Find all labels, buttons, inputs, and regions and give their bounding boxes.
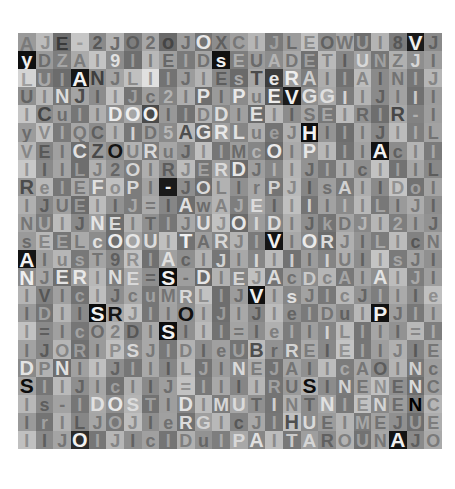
tile-letter-fragment: J [410, 197, 420, 214]
tile-letter-fragment: U [338, 251, 351, 268]
mosaic-tile: I [177, 322, 195, 340]
mosaic-tile: L [18, 69, 36, 87]
tile-letter-fragment: I [183, 52, 188, 69]
tile-letter-fragment: N [232, 359, 246, 377]
mosaic-tile: A [371, 268, 389, 286]
mosaic-tile: I [212, 268, 230, 286]
tile-letter-fragment: I [325, 161, 330, 178]
tile-letter-fragment: I [272, 161, 277, 178]
tile-letter-fragment: E [56, 233, 68, 250]
mosaic-tile: L [177, 359, 195, 377]
mosaic-tile: I [142, 160, 160, 178]
mosaic-tile: J [124, 413, 142, 431]
mosaic-tile: I [89, 286, 107, 304]
mosaic-tile: I [71, 304, 89, 322]
mosaic-tile: U [407, 413, 425, 431]
mosaic-tile: 2 [389, 214, 407, 232]
mosaic-tile: c [336, 359, 354, 377]
tile-letter-fragment: A [249, 431, 263, 449]
mosaic-tile: I [265, 395, 283, 413]
mosaic-tile: N [230, 359, 248, 377]
mosaic-tile: E [424, 413, 442, 431]
mosaic-tile: A [71, 51, 89, 69]
mosaic-tile: J [106, 359, 124, 377]
mosaic-tile: I [301, 250, 319, 268]
mosaic-tile: I [371, 178, 389, 196]
mosaic-tile: R [389, 105, 407, 123]
mosaic-tile: s [283, 286, 301, 304]
mosaic-tile: I [18, 105, 36, 123]
mosaic-tile: J [336, 232, 354, 250]
tile-letter-fragment: D [90, 395, 104, 413]
tile-letter-fragment: D [38, 52, 51, 69]
tile-letter-fragment: I [360, 197, 365, 214]
mosaic-tile: I [89, 340, 107, 358]
tile-letter-fragment: E [250, 360, 262, 377]
tile-letter-fragment: I [166, 197, 171, 214]
mosaic-tile: I [318, 123, 336, 141]
tile-letter-fragment: - [183, 269, 189, 286]
tile-letter-fragment: s [234, 70, 244, 87]
mosaic-tile: S [18, 377, 36, 395]
mosaic-tile: I [283, 214, 301, 232]
tile-letter-fragment: I [183, 323, 188, 340]
tile-letter-fragment: J [198, 360, 208, 377]
mosaic-tile: J [407, 250, 425, 268]
mosaic-tile: J [212, 250, 230, 268]
mosaic-tile: I [336, 413, 354, 431]
mosaic-tile: I [354, 196, 372, 214]
tile-letter-fragment: A [303, 431, 317, 449]
mosaic-tile: I [36, 250, 54, 268]
tile-letter-fragment: I [60, 70, 65, 88]
mosaic-tile: P [36, 359, 54, 377]
tile-letter-fragment: A [338, 269, 351, 286]
mosaic-tile: J [230, 286, 248, 304]
tile-letter-fragment: D [126, 323, 139, 340]
mosaic-tile: U [354, 33, 372, 51]
tile-letter-fragment: I [272, 395, 277, 413]
mosaic-tile: u [195, 431, 213, 449]
mosaic-tile: 2 [106, 322, 124, 340]
tile-letter-fragment: I [431, 323, 436, 340]
tile-letter-fragment: I [201, 342, 206, 359]
mosaic-tile: J [248, 160, 266, 178]
tile-letter-fragment: U [38, 215, 51, 232]
tile-letter-fragment: I [431, 143, 436, 160]
tile-letter-fragment: I [413, 161, 418, 178]
mosaic-tile: I [18, 196, 36, 214]
tile-letter-fragment: J [75, 215, 85, 232]
tile-letter-fragment: c [340, 360, 350, 377]
mosaic-tile: E [159, 51, 177, 69]
tile-letter-fragment: I [60, 124, 65, 141]
tile-letter-fragment: S [161, 322, 175, 340]
mosaic-tile: A [301, 69, 319, 87]
tile-letter-fragment: I [395, 360, 400, 377]
mosaic-tile: D [142, 123, 160, 141]
mosaic-tile: I [283, 250, 301, 268]
mosaic-tile: R [212, 232, 230, 250]
mosaic-tile: U [283, 377, 301, 395]
mosaic-tile: I [124, 123, 142, 141]
mosaic-tile: J [301, 160, 319, 178]
mosaic-tile: I [212, 413, 230, 431]
mosaic-tile: S [301, 105, 319, 123]
tile-letter-fragment: U [232, 395, 246, 413]
mosaic-tile: I [283, 322, 301, 340]
tile-letter-fragment: R [285, 341, 299, 359]
mosaic-tile: J [177, 142, 195, 160]
mosaic-tile: L [424, 123, 442, 141]
mosaic-tile: I [424, 51, 442, 69]
mosaic-tile: c [106, 377, 124, 395]
mosaic-tile: J [248, 304, 266, 322]
mosaic-tile: I [18, 304, 36, 322]
mosaic-tile: I [212, 431, 230, 449]
tile-letter-fragment: = [145, 269, 156, 286]
tile-letter-fragment: N [374, 432, 387, 449]
mosaic-tile: I [53, 286, 71, 304]
mosaic-tile: E [301, 33, 319, 51]
mosaic-tile: I [212, 286, 230, 304]
mosaic-tile: c [230, 413, 248, 431]
mosaic-tile: I [142, 178, 160, 196]
mosaic-tile: D [389, 178, 407, 196]
mosaic-tile: s [18, 232, 36, 250]
